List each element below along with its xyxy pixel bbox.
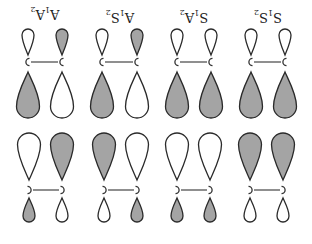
p-lobe-small (96, 29, 108, 55)
symmetry-label: S1A2 (180, 8, 208, 25)
p-lobe-large (272, 133, 295, 180)
p-lobe-small (245, 29, 257, 55)
p-lobe-small (205, 29, 217, 55)
p-lobe-large (91, 72, 114, 118)
orbital-row-top (17, 29, 297, 118)
carbon-atom (209, 58, 213, 65)
p-lobe-large (274, 72, 297, 118)
p-lobe-small (56, 198, 68, 222)
p-lobe-large (126, 133, 149, 180)
p-lobe-small (171, 198, 183, 222)
p-lobe-small (22, 29, 34, 55)
orbital-diagram: A1A2A1S2S1A2S1S2 (0, 0, 312, 244)
p-lobe-large (239, 133, 262, 180)
p-lobe-small (279, 29, 291, 55)
p-lobe-large (51, 72, 74, 118)
carbon-atom (283, 58, 287, 65)
carbon-atom (103, 186, 107, 193)
orbital-pair-bottom-3 (166, 133, 222, 222)
carbon-atom (135, 58, 139, 65)
orbital-pair-bottom-4 (239, 133, 295, 222)
symmetry-label: A1S2 (106, 8, 135, 25)
p-lobe-large (240, 72, 263, 118)
p-lobe-large (126, 72, 149, 118)
orbital-labels: A1A2A1S2S1A2S1S2 (31, 5, 282, 25)
p-lobe-small (277, 198, 289, 222)
orbital-pair-bottom-1 (18, 133, 74, 222)
orbital-pair-top-4 (240, 29, 297, 118)
carbon-atom (60, 58, 64, 65)
p-lobe-large (17, 72, 40, 118)
p-lobe-small (98, 198, 110, 222)
p-lobe-small (171, 29, 183, 55)
p-lobe-small (204, 198, 216, 222)
p-lobe-large (199, 133, 222, 180)
carbon-atom (136, 186, 140, 193)
carbon-atom (209, 186, 213, 193)
p-lobe-small (56, 29, 68, 55)
carbon-atom (175, 58, 179, 65)
carbon-atom (26, 58, 30, 65)
orbital-pair-top-1 (17, 29, 74, 118)
orbital-row-bottom (18, 133, 295, 222)
symmetry-label: A1A2 (31, 5, 61, 22)
p-lobe-large (18, 133, 41, 180)
p-lobe-small (244, 198, 256, 222)
carbon-atom (61, 186, 65, 193)
symmetry-label: S1S2 (254, 8, 282, 25)
carbon-atom (100, 58, 104, 65)
orbital-pair-bottom-2 (93, 133, 149, 222)
p-lobe-small (23, 198, 35, 222)
p-lobe-large (200, 72, 223, 118)
p-lobe-large (51, 133, 74, 180)
carbon-atom (28, 186, 32, 193)
carbon-atom (282, 186, 286, 193)
carbon-atom (249, 58, 253, 65)
carbon-atom (176, 186, 180, 193)
orbital-pair-top-3 (166, 29, 223, 118)
p-lobe-large (93, 133, 116, 180)
orbital-pair-top-2 (91, 29, 149, 118)
p-lobe-small (131, 198, 143, 222)
p-lobe-large (166, 72, 189, 118)
p-lobe-small (131, 29, 143, 55)
p-lobe-large (166, 133, 189, 180)
carbon-atom (249, 186, 253, 193)
